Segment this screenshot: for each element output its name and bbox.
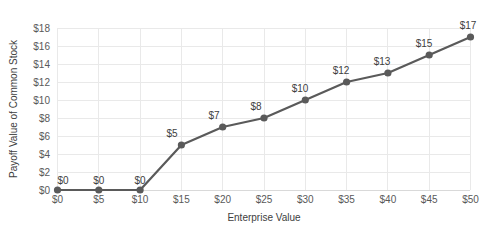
ytick-label-18: $18 bbox=[33, 23, 50, 34]
payoff-line-chart: $18 $16 $14 $12 $10 $8 $6 $4 $2 $0 $0 $5… bbox=[0, 0, 495, 236]
data-label-0: $0 bbox=[57, 175, 69, 186]
ytick-label-16: $16 bbox=[33, 41, 50, 52]
data-label-3: $5 bbox=[166, 128, 178, 139]
data-label-9: $15 bbox=[416, 38, 433, 49]
data-point-8[interactable] bbox=[384, 69, 391, 76]
xtick-label-0: $0 bbox=[52, 194, 64, 205]
xtick-label-20: $20 bbox=[214, 194, 231, 205]
data-label-6: $10 bbox=[292, 83, 309, 94]
xtick-label-40: $40 bbox=[380, 194, 397, 205]
ytick-label-8: $8 bbox=[39, 113, 51, 124]
x-axis-title: Enterprise Value bbox=[227, 212, 301, 223]
xtick-label-50: $50 bbox=[462, 194, 479, 205]
ytick-label-2: $2 bbox=[39, 167, 51, 178]
data-label-8: $13 bbox=[374, 56, 391, 67]
data-point-0[interactable] bbox=[54, 186, 61, 193]
data-label-7: $12 bbox=[333, 65, 350, 76]
ytick-label-10: $10 bbox=[33, 95, 50, 106]
data-point-2[interactable] bbox=[137, 186, 144, 193]
data-label-5: $8 bbox=[250, 101, 262, 112]
xtick-label-45: $45 bbox=[421, 194, 438, 205]
ytick-label-0: $0 bbox=[39, 185, 51, 196]
data-point-3[interactable] bbox=[178, 141, 185, 148]
data-point-6[interactable] bbox=[302, 96, 309, 103]
data-point-10[interactable] bbox=[467, 33, 474, 40]
ytick-label-4: $4 bbox=[39, 149, 51, 160]
xtick-label-30: $30 bbox=[297, 194, 314, 205]
ytick-label-6: $6 bbox=[39, 131, 51, 142]
data-point-1[interactable] bbox=[95, 186, 102, 193]
data-point-4[interactable] bbox=[219, 123, 226, 130]
data-label-4: $7 bbox=[208, 110, 220, 121]
data-point-7[interactable] bbox=[343, 78, 350, 85]
xtick-label-25: $25 bbox=[256, 194, 273, 205]
ytick-label-12: $12 bbox=[33, 77, 50, 88]
xtick-label-35: $35 bbox=[338, 194, 355, 205]
xtick-label-15: $15 bbox=[173, 194, 190, 205]
xtick-label-5: $5 bbox=[93, 194, 105, 205]
data-label-2: $0 bbox=[135, 175, 147, 186]
xtick-label-10: $10 bbox=[132, 194, 149, 205]
chart-container: $18 $16 $14 $12 $10 $8 $6 $4 $2 $0 $0 $5… bbox=[0, 0, 495, 236]
data-label-1: $0 bbox=[93, 175, 105, 186]
y-axis-title: Payoff Value of Common Stock bbox=[8, 39, 19, 178]
data-point-9[interactable] bbox=[426, 51, 433, 58]
ytick-label-14: $14 bbox=[33, 59, 50, 70]
data-label-10: $17 bbox=[460, 20, 477, 31]
data-point-5[interactable] bbox=[260, 114, 267, 121]
